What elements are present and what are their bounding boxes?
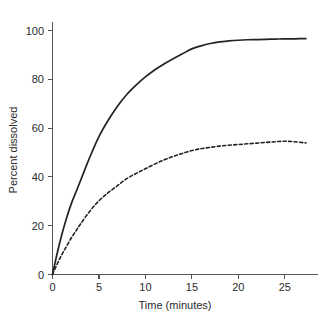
x-tick-label-15: 15	[186, 281, 198, 293]
x-tick-label-25: 25	[279, 281, 291, 293]
y-tick-marks	[48, 31, 53, 275]
y-tick-label-0: 0	[38, 269, 44, 281]
y-tick-label-20: 20	[32, 220, 44, 232]
y-tick-label-100: 100	[26, 25, 44, 37]
y-axis-title: Percent dissolved	[7, 107, 19, 194]
x-tick-label-10: 10	[139, 281, 151, 293]
series-line-dashed	[53, 141, 306, 274]
percent-dissolved-chart: 0 20 40 60 80 100 0 5 10 15 20 25 Time (…	[0, 0, 332, 320]
x-tick-label-0: 0	[49, 281, 55, 293]
x-tick-marks	[53, 275, 285, 280]
y-tick-label-80: 80	[32, 73, 44, 85]
x-tick-labels: 0 5 10 15 20 25	[49, 281, 290, 293]
y-tick-label-40: 40	[32, 171, 44, 183]
y-tick-label-60: 60	[32, 122, 44, 134]
x-tick-label-5: 5	[96, 281, 102, 293]
chart-plot-area: 0 20 40 60 80 100 0 5 10 15 20 25 Time (…	[0, 0, 332, 320]
y-tick-labels: 0 20 40 60 80 100	[26, 25, 44, 281]
series-line-solid	[53, 39, 306, 275]
x-axis-title: Time (minutes)	[139, 299, 212, 311]
x-tick-label-20: 20	[232, 281, 244, 293]
